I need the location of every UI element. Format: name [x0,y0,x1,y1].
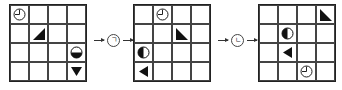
grid-cell [29,43,48,62]
arrow-icon [218,40,228,41]
grid-after-op2 [258,4,336,82]
arrow-icon [247,40,257,41]
grid-cell [297,24,316,43]
grid-cell [297,5,316,24]
grid-cell [10,5,29,24]
grid-cell [10,43,29,62]
grid-cell [67,62,86,81]
grid-cell [278,24,297,43]
triangle-left-icon [139,66,148,77]
triangle-down-icon [71,67,82,76]
grid-cell [297,43,316,62]
grid-after-op1 [133,4,211,82]
grid-cell [48,43,67,62]
grid-cell [48,24,67,43]
grid-cell [172,24,191,43]
operation-1: ㄱ [94,34,133,47]
grid-cell [10,62,29,81]
grid-cell [10,24,29,43]
grid-cell [316,62,335,81]
grid-cell [67,43,86,62]
grid-cell [172,43,191,62]
grid-cell [278,62,297,81]
grid-cell [29,62,48,81]
grid-cell [67,24,86,43]
grid-cell [153,24,172,43]
triangle-bottom-right-icon [33,28,45,40]
grid-cell [259,5,278,24]
grid-cell [134,5,153,24]
triangle-bottom-left-icon [176,28,188,40]
grid-cell [134,24,153,43]
half-circle-left-icon [281,27,294,40]
grid-cell [191,5,210,24]
operation-symbol: ㄱ [107,34,120,47]
grid-cell [191,43,210,62]
grid-cell [191,62,210,81]
grid-cell [316,5,335,24]
grid-cell [29,5,48,24]
grid-cell [172,5,191,24]
grid-cell [278,43,297,62]
grid-cell [259,62,278,81]
grid-cell [134,62,153,81]
clock-icon [13,8,26,21]
grid-cell [67,5,86,24]
half-circle-bottom-icon [70,46,83,59]
grid-cell [259,24,278,43]
grid-cell [48,5,67,24]
grid-cell [153,43,172,62]
grid-cell [191,24,210,43]
grid-cell [316,24,335,43]
grid-cell [153,5,172,24]
grid-cell [278,5,297,24]
grid-initial [9,4,87,82]
grid-cell [48,62,67,81]
grid-cell [259,43,278,62]
arrow-icon [94,40,104,41]
clock-icon [300,65,313,78]
grid-cell [297,62,316,81]
grid-cell [134,43,153,62]
grid-cell [29,24,48,43]
operation-2: ㄴ [218,34,257,47]
half-circle-left-icon [137,46,150,59]
clock-icon [156,8,169,21]
operation-symbol: ㄴ [231,34,244,47]
triangle-left-icon [283,47,292,58]
grid-cell [172,62,191,81]
arrow-icon [123,40,133,41]
grid-cell [153,62,172,81]
triangle-bottom-left-icon [320,9,332,21]
grid-cell [316,43,335,62]
